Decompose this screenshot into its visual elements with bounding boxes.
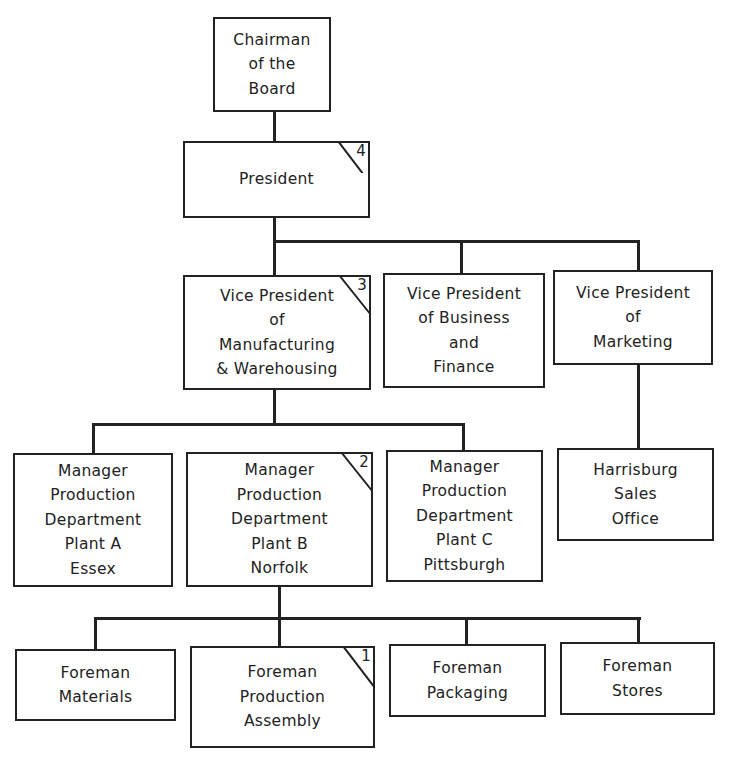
node-vp-business: Vice President of Business and Finance bbox=[383, 273, 545, 388]
connector-vp-manufacturing-down bbox=[273, 388, 276, 426]
node-line: Sales bbox=[614, 482, 657, 507]
node-chairman: Chairman of the Board bbox=[213, 17, 331, 112]
marker-number: 2 bbox=[359, 453, 369, 471]
node-manager-plant-b: 2 Manager Production Department Plant B … bbox=[186, 452, 373, 587]
node-line: Norfolk bbox=[251, 556, 309, 581]
node-foreman-materials: Foreman Materials bbox=[15, 649, 176, 721]
node-line: Plant B bbox=[251, 532, 308, 557]
node-line: Foreman bbox=[248, 660, 318, 685]
node-vp-marketing: Vice President of Marketing bbox=[553, 270, 713, 365]
node-line: of bbox=[269, 308, 285, 333]
node-line: Production bbox=[240, 685, 325, 710]
node-line: Marketing bbox=[593, 330, 673, 355]
node-line: Chairman bbox=[233, 28, 310, 53]
marker-number: 1 bbox=[361, 647, 371, 665]
connector-chairman-president bbox=[273, 110, 276, 145]
node-line: Harrisburg bbox=[593, 458, 678, 483]
node-line: President bbox=[239, 167, 314, 192]
node-line: Stores bbox=[612, 679, 663, 704]
node-foreman-production-assembly: 1 Foreman Production Assembly bbox=[190, 646, 375, 748]
node-foreman-packaging: Foreman Packaging bbox=[389, 644, 546, 717]
connector-to-plant-a bbox=[92, 423, 95, 455]
node-line: Plant C bbox=[436, 528, 493, 553]
node-line: Foreman bbox=[61, 661, 131, 686]
node-harrisburg-sales-office: Harrisburg Sales Office bbox=[557, 448, 714, 541]
connector-to-vp-business bbox=[460, 240, 463, 276]
marker-number: 3 bbox=[357, 276, 367, 294]
marker-corner: 3 bbox=[339, 275, 371, 307]
node-line: of the bbox=[248, 52, 295, 77]
connector-to-foreman-materials bbox=[94, 617, 97, 651]
node-line: Department bbox=[231, 507, 328, 532]
connector-to-foreman-stores bbox=[637, 617, 640, 645]
node-president: 4 President bbox=[183, 141, 370, 218]
connector-vp-bus bbox=[273, 240, 640, 243]
node-line: Essex bbox=[70, 557, 116, 582]
node-foreman-stores: Foreman Stores bbox=[560, 642, 715, 715]
node-line: Foreman bbox=[433, 656, 503, 681]
connector-to-foreman-packaging bbox=[465, 617, 468, 647]
node-line: Department bbox=[45, 508, 142, 533]
connector-managers-bus bbox=[92, 423, 465, 426]
node-line: Vice President bbox=[576, 281, 690, 306]
node-line: Vice President bbox=[220, 284, 334, 309]
connector-president-down bbox=[273, 215, 276, 243]
marker-number: 4 bbox=[356, 142, 366, 160]
node-line: of Business bbox=[418, 306, 510, 331]
org-chart: Chairman of the Board 4 President 3 Vice… bbox=[0, 0, 733, 760]
connector-plant-b-down bbox=[278, 585, 281, 620]
node-line: Finance bbox=[433, 355, 494, 380]
node-line: Materials bbox=[59, 685, 133, 710]
marker-corner: 1 bbox=[343, 646, 375, 678]
node-manager-plant-a: Manager Production Department Plant A Es… bbox=[13, 453, 173, 587]
node-line: Manager bbox=[58, 459, 128, 484]
node-line: Production bbox=[422, 479, 507, 504]
node-line: Manager bbox=[244, 458, 314, 483]
node-line: Assembly bbox=[244, 709, 321, 734]
node-line: Pittsburgh bbox=[424, 553, 506, 578]
marker-corner: 4 bbox=[338, 141, 370, 173]
node-manager-plant-c: Manager Production Department Plant C Pi… bbox=[386, 450, 543, 582]
connector-foremen-bus bbox=[94, 617, 641, 620]
node-line: Manufacturing bbox=[219, 333, 335, 358]
node-vp-manufacturing: 3 Vice President of Manufacturing & Ware… bbox=[183, 275, 371, 390]
node-line: Production bbox=[50, 483, 135, 508]
node-line: Office bbox=[612, 507, 659, 532]
marker-corner: 2 bbox=[341, 452, 373, 484]
node-line: and bbox=[449, 331, 479, 356]
node-line: & Warehousing bbox=[216, 357, 338, 382]
node-line: Foreman bbox=[603, 654, 673, 679]
node-line: Manager bbox=[429, 455, 499, 480]
node-line: Board bbox=[248, 77, 295, 102]
node-line: of bbox=[625, 305, 641, 330]
node-line: Vice President bbox=[407, 282, 521, 307]
node-line: Plant A bbox=[65, 532, 122, 557]
connector-vp-marketing-harrisburg bbox=[637, 362, 640, 450]
node-line: Department bbox=[416, 504, 513, 529]
node-line: Packaging bbox=[427, 681, 508, 706]
connector-to-vp-marketing bbox=[637, 240, 640, 272]
node-line: Production bbox=[237, 483, 322, 508]
connector-to-vp-manufacturing bbox=[273, 240, 276, 278]
connector-to-foreman-assembly bbox=[278, 617, 281, 649]
connector-to-plant-c bbox=[462, 423, 465, 453]
